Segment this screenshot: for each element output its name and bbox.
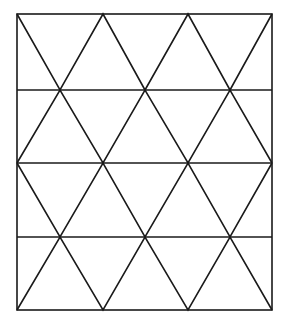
- triangle-grid-diagram: [0, 0, 290, 329]
- zigzag-row-2: [17, 90, 272, 163]
- zigzag-row-1: [17, 14, 272, 90]
- zigzag-row-3: [17, 163, 272, 237]
- zigzag-row-4: [17, 237, 272, 310]
- triangle-lines: [17, 14, 272, 310]
- outer-frame: [17, 14, 272, 310]
